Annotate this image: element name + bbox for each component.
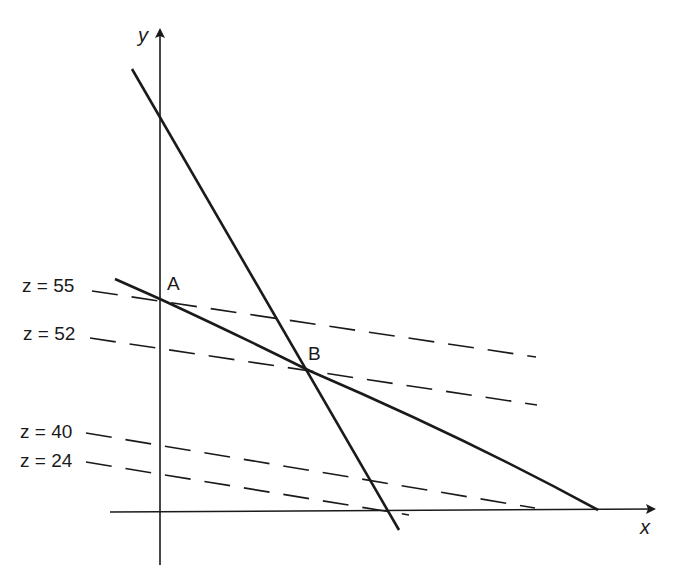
y-axis-label: y — [136, 24, 149, 46]
z52-label: z = 52 — [23, 323, 75, 344]
x-axis-label: x — [639, 516, 651, 538]
point-a-label: A — [167, 273, 180, 294]
z24-label: z = 24 — [20, 450, 73, 471]
z55-label: z = 55 — [22, 275, 74, 296]
objective-line-z24 — [86, 462, 409, 515]
lp-diagram: y x A B z = 55 z = 52 z = 40 z = 24 — [0, 0, 678, 588]
point-b-label: B — [308, 343, 321, 364]
z40-label: z = 40 — [20, 421, 72, 442]
constraint-line-shallow — [115, 279, 598, 510]
constraint-line-steep — [132, 69, 399, 530]
